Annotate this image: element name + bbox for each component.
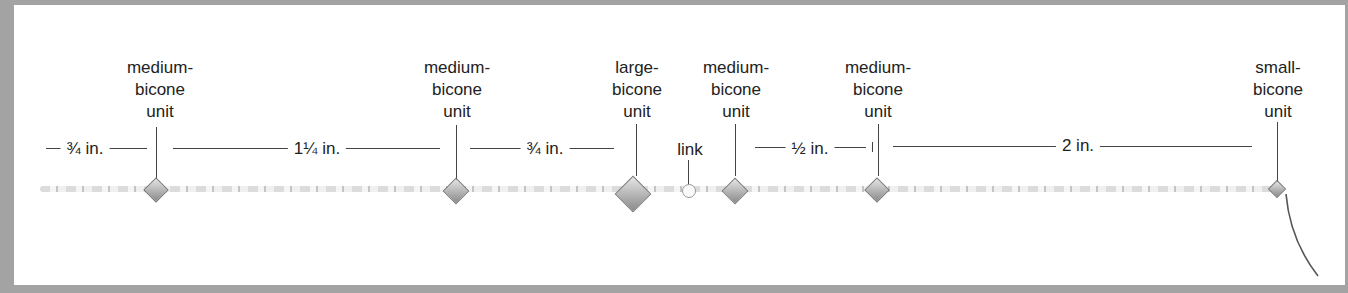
dimension-label-3: ¾ in. bbox=[521, 139, 570, 159]
leader-line-3 bbox=[636, 124, 637, 176]
jump-ring-link bbox=[682, 184, 696, 198]
leader-line-2 bbox=[456, 125, 457, 180]
dimension-label-1: ¾ in. bbox=[61, 139, 110, 159]
unit-label-4: medium-biconeunit bbox=[703, 57, 769, 123]
link-label: link bbox=[677, 139, 703, 161]
leader-line-5 bbox=[878, 124, 879, 176]
dimension-tick bbox=[872, 142, 873, 152]
leader-line-1 bbox=[156, 127, 157, 179]
link-leader-line bbox=[688, 160, 689, 184]
dimension-label-5: 2 in. bbox=[1056, 136, 1100, 156]
dimension-label-2: 1¼ in. bbox=[288, 139, 346, 159]
unit-label-1: medium-biconeunit bbox=[127, 57, 193, 123]
leader-line-4 bbox=[735, 124, 736, 176]
leader-line-6 bbox=[1277, 122, 1278, 182]
unit-label-6: small-biconeunit bbox=[1253, 57, 1303, 123]
unit-label-5: medium-biconeunit bbox=[845, 57, 911, 123]
wire-tail bbox=[1280, 190, 1320, 280]
unit-label-2: medium-biconeunit bbox=[424, 57, 490, 123]
dimension-label-4: ½ in. bbox=[786, 139, 835, 159]
unit-label-3: large-biconeunit bbox=[612, 57, 662, 123]
bead-chain bbox=[40, 186, 1280, 192]
